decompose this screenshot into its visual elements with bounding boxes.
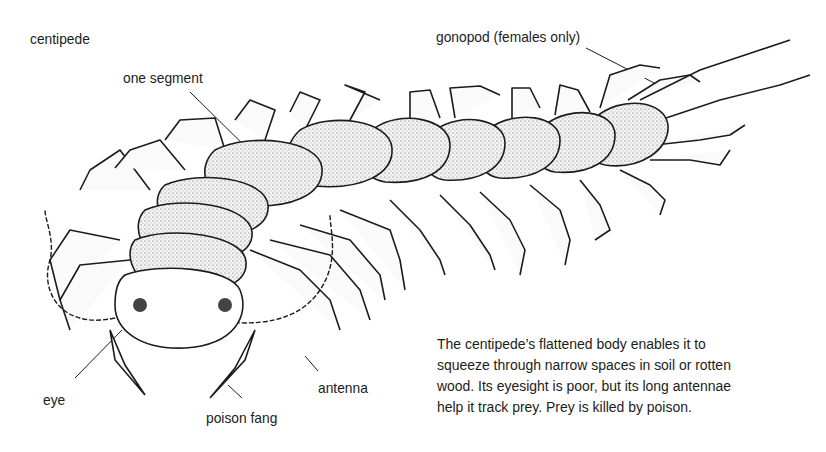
caption-line: help it track prey. Prey is killed by po…	[437, 396, 788, 417]
eye-left	[133, 298, 147, 312]
head	[115, 268, 243, 348]
diagram-title: centipede	[30, 30, 90, 47]
caption-line: squeeze through narrow spaces in soil or…	[437, 354, 788, 375]
centipede-diagram: centipede one segment gonopod (females o…	[0, 0, 826, 452]
label-eye: eye	[43, 391, 65, 408]
label-one-segment: one segment	[123, 69, 203, 86]
label-gonopod: gonopod (females only)	[436, 28, 580, 45]
label-poison-fang: poison fang	[206, 409, 277, 426]
caption-line: wood. Its eyesight is poor, but its long…	[437, 375, 788, 396]
caption-line: The centipede’s flattened body enables i…	[437, 333, 788, 354]
label-antenna: antenna	[318, 379, 368, 396]
caption-text: The centipede’s flattened body enables i…	[437, 333, 788, 417]
eye-right	[218, 298, 232, 312]
